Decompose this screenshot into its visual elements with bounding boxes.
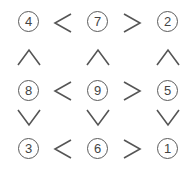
caret-down-icon — [16, 108, 42, 128]
caret-up-icon — [16, 47, 42, 67]
cell-r0c1[interactable]: 7 — [87, 11, 108, 32]
caret-up-icon — [155, 47, 181, 67]
cell-r1c0[interactable]: 8 — [18, 80, 39, 101]
less-than-icon — [52, 12, 74, 34]
cell-r2c0[interactable]: 3 — [18, 138, 39, 159]
less-than-icon — [52, 80, 74, 102]
puzzle-board: 4 7 2 8 9 5 3 6 1 — [0, 0, 192, 172]
cell-r2c1[interactable]: 6 — [87, 138, 108, 159]
less-than-icon — [52, 138, 74, 160]
cell-r0c2[interactable]: 2 — [157, 11, 178, 32]
greater-than-icon — [121, 138, 143, 160]
caret-up-icon — [85, 47, 111, 67]
cell-r1c2[interactable]: 5 — [157, 80, 178, 101]
greater-than-icon — [121, 12, 143, 34]
caret-down-icon — [85, 108, 111, 128]
cell-r2c2[interactable]: 1 — [157, 138, 178, 159]
cell-r1c1[interactable]: 9 — [87, 80, 108, 101]
greater-than-icon — [121, 80, 143, 102]
caret-down-icon — [155, 108, 181, 128]
cell-r0c0[interactable]: 4 — [18, 11, 39, 32]
